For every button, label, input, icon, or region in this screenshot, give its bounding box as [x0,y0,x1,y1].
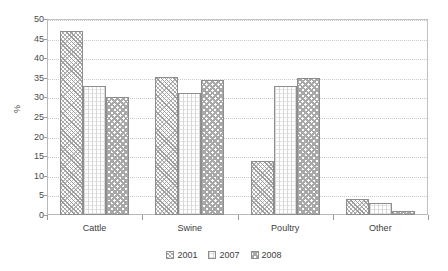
bars-layer [47,19,428,215]
legend-swatch-icon-2001 [166,251,174,259]
bar-swine-2001 [155,77,178,215]
bar-swine-2008 [201,80,224,215]
bar-chart: % 05101520253035404550 CattleSwinePoultr… [0,0,448,271]
x-axis-tick-label-swine: Swine [178,223,203,233]
x-axis-tick-mark [333,215,334,220]
x-axis-tick-mark [142,215,143,220]
legend-label-2001: 2001 [177,250,197,260]
legend-label-2007: 2007 [219,250,239,260]
bar-poultry-2008 [297,78,320,215]
chart-legend: 200120072008 [0,250,448,260]
bar-other-2008 [392,211,415,215]
y-axis-tick-marks [0,19,48,215]
x-axis-tick-label-poultry: Poultry [271,223,299,233]
bar-cattle-2007 [83,86,106,215]
bar-cattle-2001 [60,31,83,215]
legend-label-2008: 2008 [262,250,282,260]
bar-other-2001 [346,199,369,215]
bar-swine-2007 [178,93,201,215]
legend-swatch-icon-2007 [208,251,216,259]
legend-swatch-icon-2008 [251,251,259,259]
bar-other-2007 [369,203,392,215]
legend-item-2008[interactable]: 2008 [251,250,282,260]
x-axis-tick-label-other: Other [369,223,392,233]
bar-poultry-2001 [251,161,274,215]
x-axis-tick-mark [238,215,239,220]
bar-poultry-2007 [274,86,297,215]
x-axis-tick-mark [47,215,48,220]
x-axis-tick-label-cattle: Cattle [83,223,107,233]
legend-item-2007[interactable]: 2007 [208,250,239,260]
x-axis-tick-mark [428,215,429,220]
legend-item-2001[interactable]: 2001 [166,250,197,260]
bar-cattle-2008 [106,97,129,215]
